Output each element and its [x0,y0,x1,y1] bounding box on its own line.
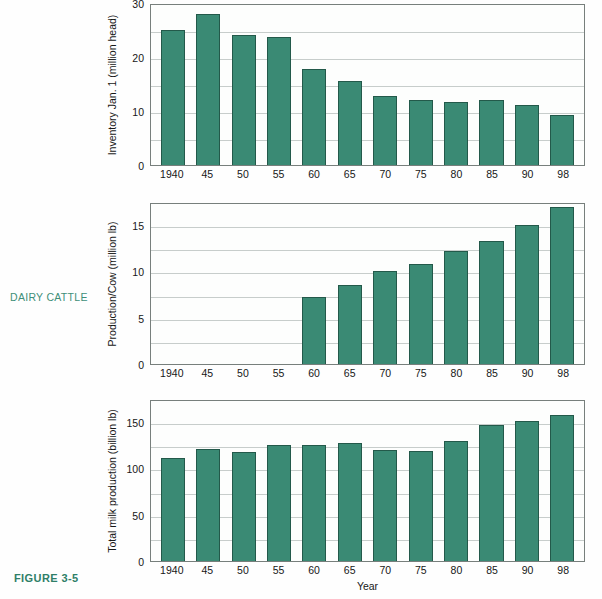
y-axis-title: Inventory Jan. 1 (million head) [104,4,120,166]
bar[interactable] [550,207,574,364]
bar-slot [332,401,367,561]
bar[interactable] [444,441,468,561]
bar[interactable] [373,271,397,364]
y-axis-title: Production/Cow (million lb) [104,203,120,365]
bar[interactable] [373,450,397,561]
x-tick-label: 90 [510,564,546,576]
bar[interactable] [338,285,362,364]
x-tick-label: 55 [261,564,297,576]
figure-caption: FIGURE 3-5 [14,572,79,584]
y-tick-label: 20 [132,52,144,64]
bar[interactable] [479,241,503,364]
bar[interactable] [196,449,220,561]
bar[interactable] [302,445,326,561]
bar[interactable] [267,37,291,165]
bar[interactable] [479,100,503,165]
x-axis-title: Year [150,580,585,592]
bar[interactable] [302,69,326,165]
bar[interactable] [409,264,433,364]
y-axis-title: Total milk production (billion lb) [104,400,120,562]
bar-slot [155,204,190,364]
bar[interactable] [302,297,326,364]
x-axis-tick-labels: 19404550556065707580859098 [150,564,585,576]
x-tick-label: 98 [545,564,581,576]
y-tick-label: 10 [132,106,144,118]
bar[interactable] [161,30,185,165]
x-axis-tick-labels: 19404550556065707580859098 [150,168,585,180]
bar-slot [261,5,296,165]
y-tick-label: 30 [132,0,144,10]
bar-slot [438,204,473,364]
chart-panel-production-per-cow: Production/Cow (million lb) 051015 19404… [0,203,602,399]
bar-slot [297,204,332,364]
bar-slot [261,401,296,561]
x-tick-label: 75 [403,367,439,379]
bar[interactable] [196,14,220,165]
bar[interactable] [515,105,539,165]
bar-slot [438,5,473,165]
bar-slot [509,5,544,165]
x-axis-tick-labels: 19404550556065707580859098 [150,367,585,379]
x-tick-label: 98 [545,367,581,379]
x-tick-label: 70 [367,168,403,180]
y-axis-tick-labels: 050100150 [120,400,148,562]
bar[interactable] [232,35,256,165]
bar[interactable] [515,421,539,561]
x-tick-label: 60 [296,367,332,379]
bar-slot [190,5,225,165]
bar[interactable] [515,225,539,364]
x-tick-label: 98 [545,168,581,180]
x-tick-label: 85 [474,564,510,576]
x-tick-label: 80 [439,367,475,379]
x-tick-label: 85 [474,168,510,180]
x-tick-label: 65 [332,367,368,379]
bar-slot [438,401,473,561]
bar-slot [403,401,438,561]
bar[interactable] [409,451,433,561]
x-tick-label: 50 [225,564,261,576]
bar-series [151,204,584,364]
x-tick-label: 65 [332,564,368,576]
bar[interactable] [550,115,574,165]
x-tick-label: 1940 [154,367,190,379]
bar[interactable] [338,443,362,561]
bar-slot [545,204,580,364]
bar-slot [190,204,225,364]
plot-area [150,203,585,365]
y-tick-label: 0 [138,556,144,568]
bar-slot [474,5,509,165]
bar-slot [368,401,403,561]
x-tick-label: 85 [474,367,510,379]
y-tick-label: 5 [138,313,144,325]
bar[interactable] [444,102,468,165]
x-tick-label: 1940 [154,168,190,180]
bar[interactable] [444,251,468,364]
bar[interactable] [267,445,291,561]
bar-slot [226,401,261,561]
bar[interactable] [338,81,362,165]
bar[interactable] [232,452,256,561]
x-tick-label: 80 [439,564,475,576]
y-axis-title-text: Production/Cow (million lb) [106,222,118,347]
bar[interactable] [409,100,433,165]
x-tick-label: 1940 [154,564,190,576]
bar[interactable] [373,96,397,165]
x-tick-label: 65 [332,168,368,180]
bar-slot [190,401,225,561]
bar[interactable] [550,415,574,561]
y-tick-label: 0 [138,160,144,172]
y-tick-label: 0 [138,359,144,371]
bar[interactable] [161,458,185,561]
y-axis-title-text: Inventory Jan. 1 (million head) [106,15,118,156]
x-tick-label: 50 [225,168,261,180]
bar-slot [297,401,332,561]
plot-area [150,4,585,166]
bar-slot [297,5,332,165]
bar[interactable] [479,425,503,561]
x-tick-label: 70 [367,564,403,576]
x-tick-label: 70 [367,367,403,379]
x-tick-label: 60 [296,564,332,576]
x-tick-label: 55 [261,168,297,180]
y-tick-label: 50 [132,510,144,522]
bar-slot [332,204,367,364]
